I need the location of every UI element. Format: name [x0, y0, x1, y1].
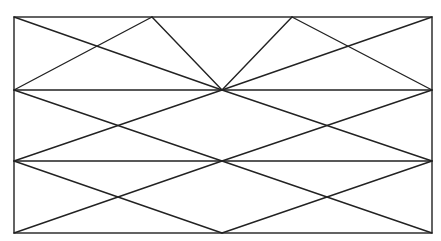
line-pattern-diagram [0, 0, 441, 241]
